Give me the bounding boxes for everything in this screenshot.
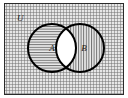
venn-diagram-canvas: U A B	[0, 0, 128, 98]
set-a-label: A	[48, 43, 55, 53]
universal-set-label: U	[17, 13, 24, 23]
set-b-label: B	[81, 43, 87, 53]
venn-diagram-figure: U A B	[0, 0, 128, 98]
